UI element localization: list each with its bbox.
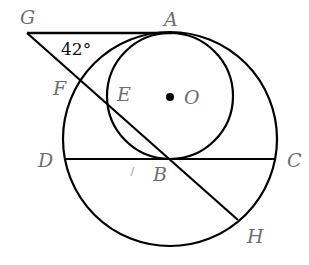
- label-f: F: [52, 77, 67, 99]
- label-d: D: [37, 149, 53, 171]
- figure-canvas: G A 42° F E O D B C H: [0, 0, 309, 265]
- secant-line-gh: [27, 33, 238, 220]
- center-dot-o: [166, 93, 174, 101]
- tick-mark: [131, 167, 134, 176]
- angle-label: 42°: [61, 39, 91, 59]
- label-g: G: [20, 6, 35, 28]
- label-e: E: [116, 83, 131, 105]
- outer-circle: [63, 32, 277, 246]
- label-a: A: [162, 8, 178, 30]
- label-h: H: [246, 225, 264, 247]
- label-b: B: [152, 163, 167, 185]
- label-o: O: [184, 86, 200, 108]
- geometry-figure: G A 42° F E O D B C H: [0, 0, 309, 265]
- label-c: C: [287, 149, 302, 171]
